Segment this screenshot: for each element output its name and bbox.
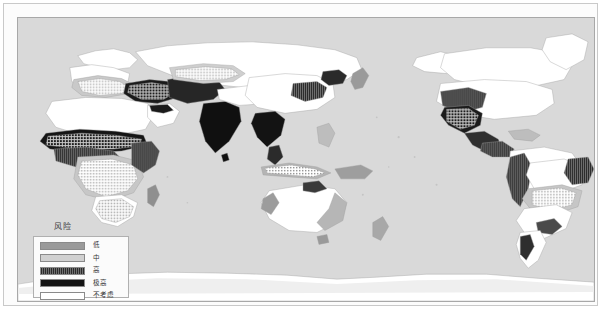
legend-item-medium[interactable]: 中	[34, 253, 128, 264]
legend-item-not-considered[interactable]: 不考虑	[34, 290, 128, 301]
legend-label-high: 高	[93, 267, 100, 274]
legend-swatch-very-high	[40, 279, 85, 287]
legend-title: 风险	[54, 220, 71, 231]
legend-item-very-high[interactable]: 极高	[34, 278, 128, 289]
map-figure: 风险 低 中 高 极高 不考虑	[0, 0, 604, 312]
legend-box[interactable]: 低 中 高 极高 不考虑	[33, 236, 129, 298]
legend-item-low[interactable]: 低	[34, 240, 128, 251]
legend-label-medium: 中	[93, 255, 100, 262]
legend-label-not-considered: 不考虑	[93, 292, 114, 299]
legend-label-low: 低	[93, 242, 100, 249]
legend-swatch-not-considered	[40, 292, 85, 300]
legend-label-very-high: 极高	[93, 280, 107, 287]
legend-swatch-medium	[40, 254, 85, 262]
page-border: 风险 低 中 高 极高 不考虑	[3, 3, 598, 306]
legend-swatch-low	[40, 242, 85, 250]
legend-swatch-high	[40, 267, 85, 275]
legend-item-high[interactable]: 高	[34, 265, 128, 276]
